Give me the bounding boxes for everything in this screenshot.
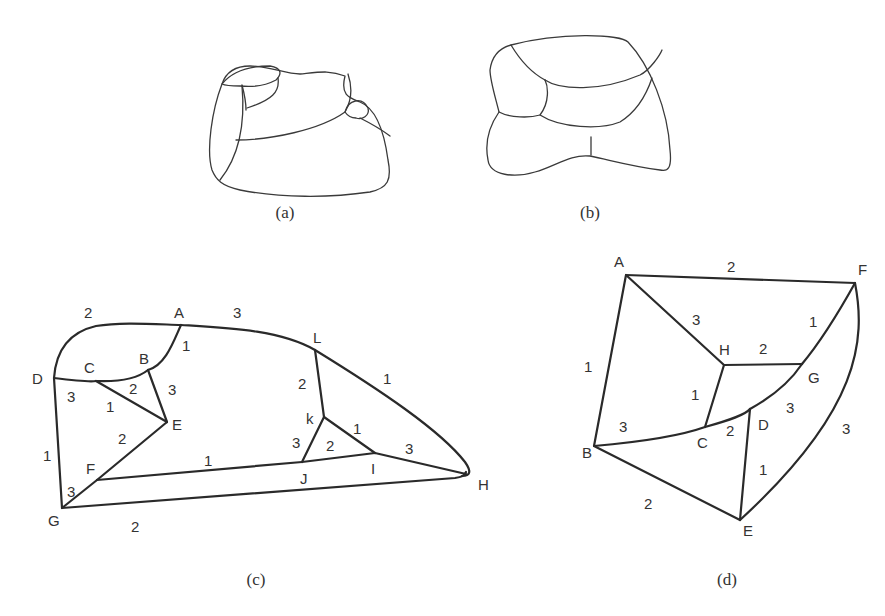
edge-label-AB: 1 [182,337,190,354]
edge-label-kI: 1 [353,420,361,437]
vertex-D: D [32,370,43,387]
edge-E-F [97,422,167,480]
edge-label-kJ: 3 [292,434,300,451]
edge-H-C [705,365,724,427]
vertex-I: I [371,460,375,477]
edge-L-k [315,350,324,417]
vertex-D: D [758,416,769,433]
edge-J-I [302,453,375,462]
edge-label-FE: 3 [842,420,850,437]
vertex-G: G [808,369,820,386]
caption-d: (d) [717,570,737,589]
vertex-J: J [300,470,308,487]
edge-label-BC: 3 [619,418,627,435]
edge-D-A [54,324,181,378]
vertex-L: L [313,329,321,346]
edge-B-C [594,427,705,446]
vertex-A: A [174,304,184,321]
vertex-H: H [478,476,489,493]
edge-label-LH: 1 [383,370,391,387]
edge-label-DE: 1 [759,461,767,478]
edge-B-E [594,446,740,520]
edge-label-IH: 3 [405,440,413,457]
vertex-k: k [306,410,314,427]
edge-label-DG: 3 [786,399,794,416]
edge-H-G [724,364,802,365]
edge-A-B [148,325,181,370]
edge-B-E [148,370,167,422]
edge-label-AL: 3 [233,304,241,321]
vertex-H: H [719,341,730,358]
edge-label-BE: 3 [168,381,176,398]
edge-label-HC: 1 [691,386,699,403]
edge-I-H [375,453,466,474]
edge-label-FI: 1 [204,452,212,469]
panel-d: A B C D E F G H 2 3 1 2 1 1 3 2 3 1 2 3 … [582,253,867,589]
edge-D-G [54,378,62,508]
edge-label-CB: 2 [129,380,137,397]
vertex-C: C [697,434,708,451]
edge-label-EF: 2 [118,430,126,447]
caption-b: (b) [580,203,600,222]
edge-A-F [626,275,855,283]
edge-label-GF: 1 [809,313,817,330]
edge-label-BE: 2 [644,495,652,512]
vertex-E: E [743,522,753,539]
edge-A-L [181,325,315,350]
edge-label-DG: 1 [43,447,51,464]
panel-b: (b) [487,36,671,222]
edge-D-C [54,378,96,381]
panel-c: A B C D E F G H I J k L 2 3 1 2 3 3 1 2 … [32,304,489,589]
vertex-A: A [614,253,624,270]
vertex-C: C [84,359,95,376]
edge-label-DA: 2 [84,304,92,321]
edge-A-H [626,275,724,365]
vertex-F: F [858,261,867,278]
edge-label-DC: 3 [67,388,75,405]
vertex-F: F [86,460,95,477]
edge-F-J [97,462,302,480]
edge-label-CD: 2 [726,422,734,439]
caption-c: (c) [247,570,266,589]
edge-label-CE: 1 [106,398,114,415]
vertex-E: E [172,416,182,433]
edge-label-JI: 2 [326,437,334,454]
edge-label-Lk: 2 [298,375,306,392]
edge-D-E [740,409,750,520]
panel-a: (a) [210,66,390,222]
edge-label-AF: 2 [727,258,735,275]
edge-label-GH: 2 [131,518,139,535]
vertex-B: B [139,350,149,367]
edge-label-HG: 2 [759,340,767,357]
edge-C-B [96,370,148,381]
edge-label-AB: 1 [584,358,592,375]
edge-F-E [740,283,859,520]
caption-a: (a) [276,203,295,222]
figure-canvas: (a) (b) [0,0,885,616]
edge-label-GF: 3 [67,483,75,500]
vertex-B: B [582,444,592,461]
vertex-G: G [48,512,60,529]
edge-label-AH: 3 [692,311,700,328]
